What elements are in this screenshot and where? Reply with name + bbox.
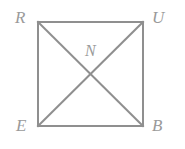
vertex-label-B: B	[152, 117, 162, 134]
square-diagonals	[38, 22, 143, 126]
vertex-label-E: E	[16, 117, 26, 134]
point-label-N: N	[85, 43, 96, 59]
geometry-figure: R U B E N	[0, 0, 185, 149]
vertex-label-R: R	[15, 9, 25, 26]
vertex-label-U: U	[152, 9, 164, 26]
